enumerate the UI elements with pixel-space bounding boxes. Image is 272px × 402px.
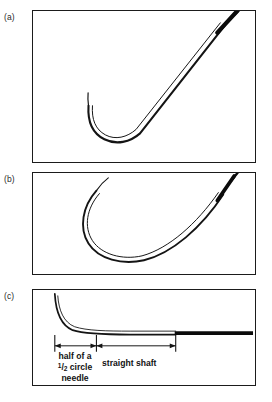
needle-body-inner-a [92, 23, 220, 138]
panel-label-b: (b) [4, 175, 15, 184]
needle-body-outer-c [55, 294, 176, 335]
panel-label-c: (c) [4, 292, 14, 301]
arrowhead-shaft-left [96, 343, 102, 348]
hook-dimension-label: half of a 1/2 circle needle [44, 351, 106, 384]
figure-container: (a) (b) (c) [0, 0, 272, 402]
fraction-denominator: 2 [64, 365, 68, 372]
needle-point-a [88, 93, 89, 106]
panel-b [32, 172, 256, 275]
shaft-dimension-label: straight shaft [102, 358, 156, 369]
arrowhead-shaft-right [170, 343, 176, 348]
suture-thread-a [234, 11, 245, 15]
panel-a [32, 10, 256, 163]
arrowhead-hook-right [90, 343, 96, 348]
fraction-numerator: 1 [58, 362, 62, 369]
hook-label-line2-suffix: circle [70, 362, 92, 372]
hook-label-line2: 1/2 circle [58, 362, 93, 372]
hook-label-line3: needle [61, 373, 88, 383]
needle-body-inner-c [58, 296, 176, 331]
needle-illustration-a [33, 11, 255, 162]
panel-label-a: (a) [4, 13, 15, 22]
needle-illustration-b [33, 173, 255, 274]
arrowhead-hook-left [55, 343, 61, 348]
suture-thread-b [231, 173, 242, 181]
hook-label-line1: half of a [59, 351, 92, 361]
needle-point-b [96, 178, 108, 191]
